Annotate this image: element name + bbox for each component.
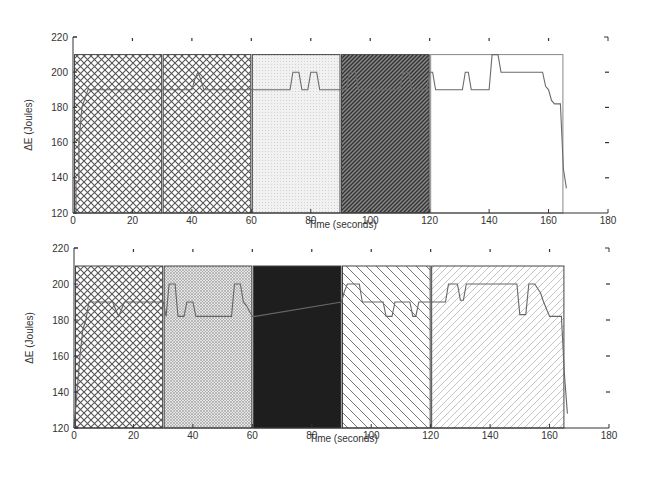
y-tick-label: 160: [51, 137, 68, 148]
y-tick-label: 180: [52, 315, 69, 326]
region-dark-diagonal: [342, 55, 430, 213]
region-fine-gray-crosshatch: [164, 266, 252, 428]
x-tick-label: 140: [482, 430, 499, 441]
y-axis-title: ΔE (Joules): [24, 312, 35, 364]
y-tick-label: 160: [52, 351, 69, 362]
region-crosshatch: [75, 55, 162, 213]
region-crosshatch: [76, 266, 163, 428]
x-tick-label: 0: [70, 215, 76, 226]
x-tick-label: 0: [71, 430, 77, 441]
x-tick-label: 20: [128, 430, 140, 441]
x-axis-title: Time (seconds): [309, 433, 378, 444]
y-tick-label: 140: [52, 387, 69, 398]
x-tick-label: 160: [541, 430, 558, 441]
y-axis-title: ΔE (Joules): [23, 99, 34, 151]
x-tick-label: 40: [186, 215, 198, 226]
x-tick-label: 120: [422, 430, 439, 441]
region-light-dots: [252, 55, 340, 213]
region-none: [431, 55, 563, 213]
chart-figure: 1201401601802002200204060801001201401601…: [0, 0, 647, 478]
y-tick-label: 120: [52, 423, 69, 434]
y-tick-label: 140: [51, 172, 68, 183]
y-tick-label: 200: [52, 279, 69, 290]
region-solid-black: [253, 266, 341, 428]
x-tick-label: 20: [127, 215, 139, 226]
top-panel: 1201401601802002200204060801001201401601…: [23, 32, 617, 231]
x-axis-title: Time (seconds): [308, 219, 377, 230]
y-tick-label: 120: [51, 208, 68, 219]
x-tick-label: 180: [601, 430, 618, 441]
y-tick-label: 220: [52, 243, 69, 254]
x-tick-label: 140: [481, 215, 498, 226]
x-tick-label: 60: [246, 215, 258, 226]
bottom-panel: 1201401601802002200204060801001201401601…: [24, 243, 618, 445]
x-tick-label: 40: [187, 430, 199, 441]
y-tick-label: 200: [51, 67, 68, 78]
region-crosshatch: [163, 55, 251, 213]
region-light-diagonal: [432, 266, 564, 428]
y-tick-label: 180: [51, 102, 68, 113]
x-tick-label: 60: [247, 430, 259, 441]
y-tick-label: 220: [51, 32, 68, 43]
x-tick-label: 120: [421, 215, 438, 226]
region-back-diagonal: [343, 266, 431, 428]
x-tick-label: 160: [540, 215, 557, 226]
x-tick-label: 180: [600, 215, 617, 226]
